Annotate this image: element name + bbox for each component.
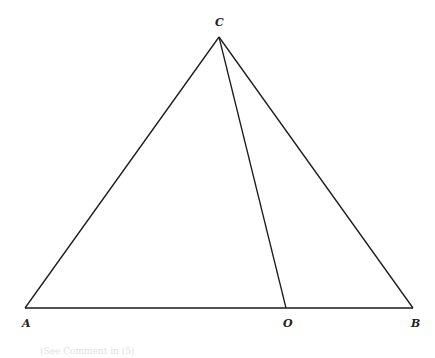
triangle-diagram: C A O B (See Comment in (5) — [0, 0, 435, 358]
segment-co — [219, 37, 286, 308]
segment-cb — [219, 37, 413, 308]
label-a: A — [21, 317, 31, 330]
segment-ac — [25, 37, 219, 308]
segments — [25, 37, 413, 308]
caption: (See Comment in (5) — [40, 346, 134, 356]
label-o: O — [283, 317, 293, 330]
label-b: B — [410, 317, 420, 330]
label-c: C — [215, 16, 224, 29]
